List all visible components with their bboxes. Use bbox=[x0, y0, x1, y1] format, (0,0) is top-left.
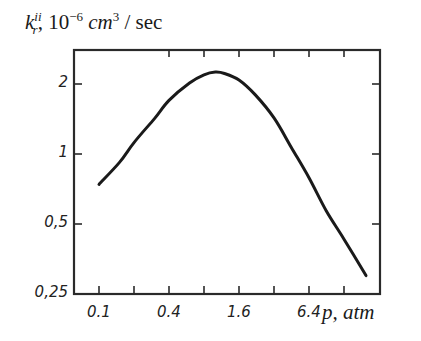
y-units: cm bbox=[83, 10, 113, 34]
y-units-tail: / sec bbox=[119, 10, 162, 34]
x-tick-label: 1.6 bbox=[219, 305, 259, 320]
y-tick-label: 0,5 bbox=[18, 215, 68, 230]
y-axis-title: kiir, 10−6 cm3 / sec bbox=[25, 10, 162, 36]
y-multiplier: , 10 bbox=[38, 10, 70, 34]
y-tick-label: 2 bbox=[18, 75, 68, 90]
data-curve bbox=[99, 72, 366, 276]
axis-ticks bbox=[74, 50, 380, 294]
x-axis-title: p, atm bbox=[322, 300, 375, 325]
y-tick-label: 1 bbox=[18, 145, 68, 160]
plot-frame bbox=[74, 50, 380, 294]
x-tick-label: 0.1 bbox=[79, 305, 119, 320]
x-tick-label: 0.4 bbox=[149, 305, 189, 320]
y-tick-label: 0,25 bbox=[18, 285, 68, 300]
y-multiplier-exponent: −6 bbox=[69, 9, 83, 24]
